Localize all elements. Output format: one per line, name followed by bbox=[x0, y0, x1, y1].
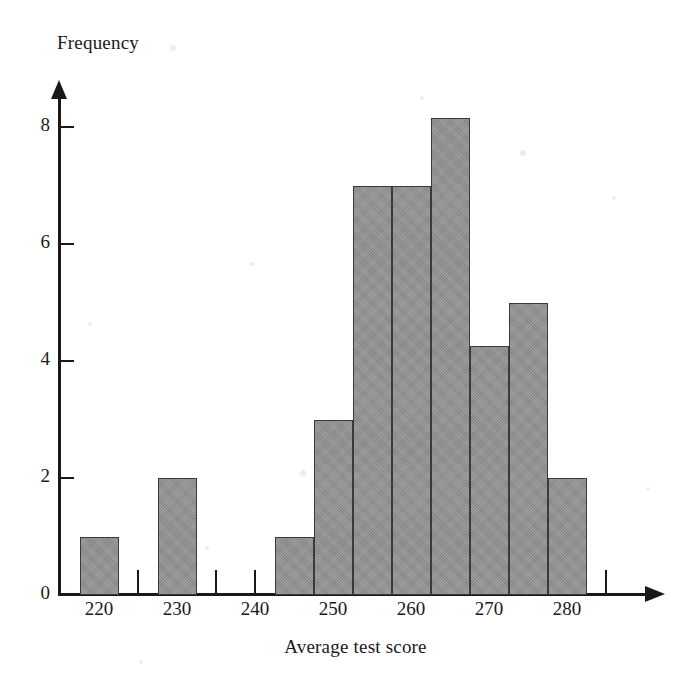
histogram-bar bbox=[392, 186, 431, 596]
y-axis-tick bbox=[61, 126, 74, 128]
y-axis-tick-label: 6 bbox=[16, 231, 50, 253]
histogram-figure: Frequency 02468 220230240250260270280 Av… bbox=[0, 0, 677, 677]
y-axis-tick bbox=[61, 360, 74, 362]
x-axis-tick bbox=[137, 570, 139, 594]
histogram-bar bbox=[353, 186, 392, 596]
y-axis-title: Frequency bbox=[57, 32, 139, 54]
x-axis-tick-label: 220 bbox=[69, 598, 129, 620]
x-axis-arrow-icon bbox=[645, 586, 665, 602]
paper-speckle bbox=[300, 470, 306, 476]
histogram-bar bbox=[470, 346, 509, 595]
x-axis-title-text: Average test score bbox=[250, 636, 427, 657]
x-axis-tick-label: 250 bbox=[303, 598, 363, 620]
y-axis-line bbox=[58, 96, 61, 596]
y-axis-arrow-icon bbox=[51, 80, 67, 99]
y-axis-tick-label: 2 bbox=[16, 465, 50, 487]
y-axis-tick-label: 8 bbox=[16, 114, 50, 136]
y-axis-tick-label: 0 bbox=[16, 582, 50, 604]
histogram-bar bbox=[314, 420, 353, 596]
y-axis-tick bbox=[61, 477, 74, 479]
y-axis-tick bbox=[61, 243, 74, 245]
x-axis-tick bbox=[254, 570, 256, 594]
x-axis-tick bbox=[59, 570, 61, 594]
x-axis-tick-label: 240 bbox=[225, 598, 285, 620]
x-axis-tick-label: 230 bbox=[147, 598, 207, 620]
paper-speckle bbox=[612, 196, 616, 200]
paper-speckle bbox=[250, 262, 254, 266]
paper-speckle bbox=[88, 322, 92, 326]
x-axis-tick-label: 280 bbox=[537, 598, 597, 620]
x-axis-title: Average test score bbox=[0, 636, 677, 658]
histogram-bar bbox=[275, 537, 314, 596]
x-axis-tick bbox=[215, 570, 217, 594]
histogram-bar bbox=[80, 537, 119, 596]
paper-speckle bbox=[560, 612, 564, 616]
histogram-bar bbox=[509, 303, 548, 596]
histogram-bar bbox=[431, 118, 470, 595]
paper-speckle bbox=[646, 487, 650, 491]
histogram-bar bbox=[158, 478, 197, 595]
paper-speckle bbox=[170, 45, 176, 51]
x-axis-tick-label: 270 bbox=[459, 598, 519, 620]
y-axis-tick-label: 4 bbox=[16, 348, 50, 370]
histogram-bar bbox=[548, 478, 587, 595]
x-axis-tick-label: 260 bbox=[381, 598, 441, 620]
paper-speckle bbox=[520, 150, 526, 156]
x-axis-tick bbox=[605, 570, 607, 594]
paper-speckle bbox=[205, 546, 209, 550]
paper-speckle bbox=[420, 96, 424, 100]
paper-speckle bbox=[139, 660, 143, 664]
